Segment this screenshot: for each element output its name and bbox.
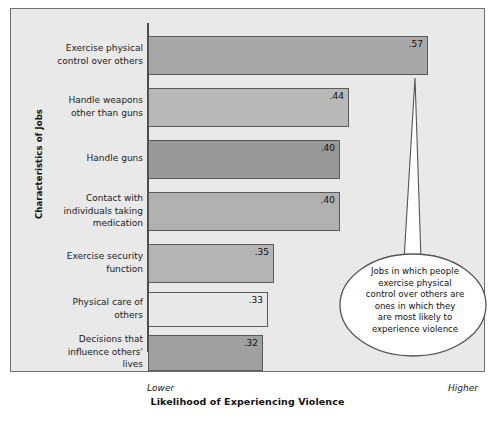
category-label-line: Physical care of: [23, 296, 143, 309]
bar-row: Contact with individuals taking medicati…: [11, 192, 484, 231]
category-label: Exercise physical control over others: [23, 42, 143, 67]
category-label-line: medication: [23, 217, 143, 230]
x-axis-high-label: Higher: [448, 383, 478, 393]
callout-text-line: control over others are: [345, 289, 485, 301]
bar-row: Handle weapons other than guns .44: [11, 88, 484, 127]
category-label-line: other than guns: [23, 107, 143, 120]
category-label: Handle weapons other than guns: [23, 94, 143, 119]
category-label-line: others: [23, 309, 143, 322]
bar-exercise-physical-control: .57: [148, 36, 428, 75]
bar-decisions-influence-others-lives: .32: [148, 335, 263, 371]
category-label: Exercise security function: [23, 250, 143, 275]
callout-text-line: ones in which they: [345, 301, 485, 313]
x-axis-low-label: Lower: [147, 383, 174, 393]
category-label-line: Handle weapons: [23, 94, 143, 107]
category-label-line: lives: [23, 358, 143, 371]
bar-value-label: .33: [249, 295, 263, 306]
category-label-line: Exercise physical: [23, 42, 143, 55]
category-label-line: Decisions that: [23, 333, 143, 346]
category-label-line: Exercise security: [23, 250, 143, 263]
bar-value-label: .32: [244, 338, 258, 349]
category-label: Physical care of others: [23, 296, 143, 321]
bar-exercise-security-function: .35: [148, 244, 274, 283]
bar-contact-individuals-taking-medication: .40: [148, 192, 340, 231]
bar-value-label: .40: [321, 195, 335, 206]
category-label-line: control over others: [23, 55, 143, 68]
bar-value-label: .44: [330, 91, 344, 102]
category-label-line: function: [23, 263, 143, 276]
callout-text-line: Jobs in which people: [345, 266, 485, 278]
callout-text-line: experience violence: [345, 324, 485, 336]
bar-value-label: .35: [255, 247, 269, 258]
bar-value-label: .40: [321, 143, 335, 154]
bar-row: Handle guns .40: [11, 140, 484, 179]
category-label: Decisions that influence others' lives: [23, 333, 143, 371]
bar-row: Exercise physical control over others .5…: [11, 36, 484, 75]
category-label-line: Contact with: [23, 192, 143, 205]
callout-text-line: are most likely to: [345, 312, 485, 324]
bar-row: Decisions that influence others' lives .…: [11, 335, 484, 371]
callout-text: Jobs in which people exercise physical c…: [345, 266, 485, 336]
category-label-line: individuals taking: [23, 205, 143, 218]
bar-handle-guns: .40: [148, 140, 340, 179]
callout-text-line: exercise physical: [345, 278, 485, 290]
category-label-line: Handle guns: [23, 152, 143, 165]
category-label: Contact with individuals taking medicati…: [23, 192, 143, 230]
bar-handle-weapons-other-than-guns: .44: [148, 88, 349, 127]
bar-value-label: .57: [409, 39, 423, 50]
bar-physical-care-of-others: .33: [148, 292, 268, 327]
x-axis-title: Likelihood of Experiencing Violence: [10, 396, 485, 407]
category-label-line: influence others': [23, 346, 143, 359]
category-label: Handle guns: [23, 152, 143, 165]
